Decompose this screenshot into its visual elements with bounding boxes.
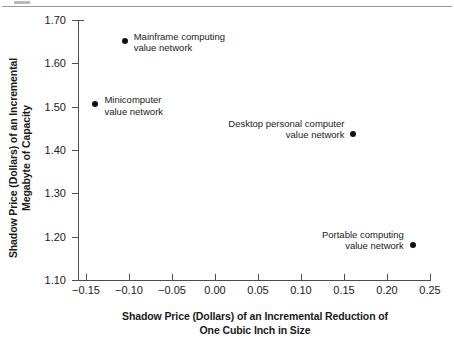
x-axis-title-line1: Shadow Price (Dollars) of an Incremental… <box>122 310 388 322</box>
x-tick-mark <box>430 274 431 281</box>
data-point-label: Desktop personal computervalue network <box>0 118 344 141</box>
data-point-label: Minicomputervalue network <box>104 94 163 117</box>
x-tick-label: −0.10 <box>105 285 153 296</box>
x-tick-label: 0.00 <box>191 285 239 296</box>
x-axis-title: Shadow Price (Dollars) of an Incremental… <box>60 309 450 337</box>
data-point-label-line1: Desktop personal computer <box>0 118 344 130</box>
x-tick-mark <box>215 274 216 281</box>
y-tick-label: 1.10 <box>22 275 66 286</box>
x-tick-label: 0.10 <box>277 285 325 296</box>
x-tick-label: 0.15 <box>320 285 368 296</box>
data-point <box>92 101 98 107</box>
y-tick-mark <box>72 193 79 194</box>
data-point-label-line1: Portable computing <box>0 229 404 241</box>
data-point-label-line2: value network <box>134 42 225 54</box>
data-point-label-line2: value network <box>104 106 163 118</box>
scatter-plot-figure: Shadow Price (Dollars) of an Incremental… <box>0 0 454 345</box>
x-axis-line <box>78 280 431 281</box>
y-tick-label: 1.50 <box>22 102 66 113</box>
x-tick-mark <box>344 274 345 281</box>
data-point <box>350 131 356 137</box>
x-tick-label: 0.05 <box>234 285 282 296</box>
y-tick-mark <box>72 20 79 21</box>
data-point-label: Mainframe computingvalue network <box>134 31 225 54</box>
y-tick-label: 1.60 <box>22 58 66 69</box>
y-tick-mark <box>72 150 79 151</box>
caption-divider-rule <box>2 6 452 7</box>
data-point-label: Portable computingvalue network <box>0 229 404 252</box>
x-tick-label: −0.05 <box>148 285 196 296</box>
y-tick-mark <box>72 107 79 108</box>
data-point <box>410 242 416 248</box>
data-point-label-line1: Minicomputer <box>104 94 163 106</box>
data-point-label-line1: Mainframe computing <box>134 31 225 43</box>
x-tick-mark <box>387 274 388 281</box>
y-tick-label: 1.70 <box>22 15 66 26</box>
data-point-label-line2: value network <box>0 240 404 252</box>
x-tick-mark <box>86 274 87 281</box>
data-point-label-line2: value network <box>0 129 344 141</box>
x-tick-mark <box>301 274 302 281</box>
y-tick-label: 1.40 <box>22 145 66 156</box>
x-tick-label: 0.25 <box>406 285 454 296</box>
x-tick-label: −0.15 <box>62 285 110 296</box>
y-tick-label: 1.30 <box>22 188 66 199</box>
x-tick-label: 0.20 <box>363 285 411 296</box>
caption-divider-stub <box>14 1 30 4</box>
x-axis-title-line2: One Cubic Inch in Size <box>200 324 311 336</box>
x-tick-mark <box>258 274 259 281</box>
y-tick-mark <box>72 63 79 64</box>
x-tick-mark <box>172 274 173 281</box>
x-tick-mark <box>129 274 130 281</box>
y-tick-mark <box>72 280 79 281</box>
data-point <box>122 38 128 44</box>
